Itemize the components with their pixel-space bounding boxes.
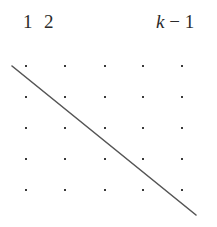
grid-dot <box>25 127 27 129</box>
grid-dot <box>181 127 183 129</box>
diagonal-line <box>0 0 217 227</box>
column-label-k-minus-1: k − 1 <box>156 12 194 31</box>
grid-dot <box>64 127 66 129</box>
grid-dot <box>25 189 27 191</box>
grid-dot <box>25 65 27 67</box>
column-label-2: 2 <box>44 12 54 31</box>
grid-dot <box>104 189 106 191</box>
grid-dot <box>104 127 106 129</box>
grid-dot <box>142 65 144 67</box>
grid-dot <box>181 158 183 160</box>
grid-dot <box>25 96 27 98</box>
diagonal-line-segment <box>12 66 196 215</box>
grid-dot <box>142 189 144 191</box>
grid-dot <box>181 189 183 191</box>
grid-dot <box>142 96 144 98</box>
column-label-1: 1 <box>23 12 33 31</box>
grid-dot <box>64 65 66 67</box>
grid-dot <box>181 65 183 67</box>
grid-dot <box>104 158 106 160</box>
grid-dot <box>142 127 144 129</box>
grid-dot <box>64 189 66 191</box>
grid-dot <box>25 158 27 160</box>
grid-dot <box>181 96 183 98</box>
grid-dot <box>142 158 144 160</box>
grid-dot <box>64 96 66 98</box>
grid-dot <box>64 158 66 160</box>
lattice-grid-figure: 1 2 k − 1 <box>0 0 217 227</box>
grid-dot <box>104 65 106 67</box>
grid-dot <box>104 96 106 98</box>
minus-one-suffix: − 1 <box>164 11 194 32</box>
